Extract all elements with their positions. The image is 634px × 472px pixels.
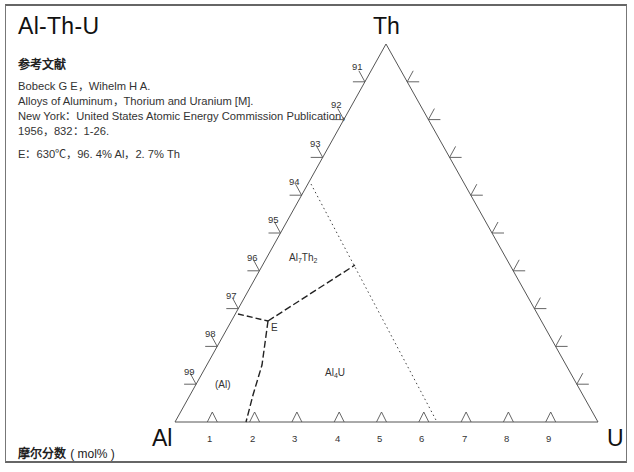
tick-mark [419, 412, 424, 422]
tick-mark [338, 109, 344, 120]
phase-label-al7th2: Al7Th2 [289, 252, 317, 264]
tick-mark [534, 298, 540, 309]
tick-label: 1 [207, 433, 212, 444]
tick-mark [492, 222, 498, 233]
tick-label: 92 [331, 99, 342, 110]
right-edge-ticks [407, 71, 589, 384]
tick-label: 5 [377, 433, 382, 444]
boundary-line-al-e [238, 314, 268, 321]
ternary-triangle [175, 44, 598, 422]
tick-mark [551, 412, 556, 422]
tick-mark [428, 109, 434, 120]
tick-label: 95 [268, 214, 279, 225]
tick-mark [513, 260, 519, 271]
bottom-edge-ticks [207, 412, 555, 422]
tick-mark [503, 412, 508, 422]
tick-mark [255, 412, 260, 422]
tick-label: 2 [250, 433, 255, 444]
tick-mark [207, 412, 212, 422]
bottom-edge-tick-labels: 1 2 3 4 5 6 7 8 9 [207, 433, 551, 444]
phase-label-al4u: Al4U [325, 367, 345, 379]
tick-label: 97 [226, 290, 237, 301]
tick-mark [359, 71, 365, 82]
vertex-label-th: Th [373, 13, 400, 39]
tick-label: 96 [247, 252, 258, 263]
tick-mark [407, 71, 413, 82]
boundary-line-e-bottom [246, 321, 268, 422]
tick-label: 6 [419, 433, 424, 444]
tick-label: 99 [184, 366, 195, 377]
tick-mark [382, 412, 387, 422]
tick-label: 9 [546, 433, 551, 444]
tick-mark [508, 412, 513, 422]
vertex-label-u: U [607, 425, 624, 451]
tick-mark [377, 412, 382, 422]
boundary-line-e-peritectic [268, 265, 355, 321]
tick-mark [250, 412, 255, 422]
tick-label: 98 [205, 328, 216, 339]
vertex-label-al: Al [152, 425, 172, 451]
tick-mark [297, 412, 302, 422]
tick-label: 94 [289, 176, 300, 187]
tick-mark [339, 412, 344, 422]
tick-label: 93 [310, 138, 321, 149]
tick-mark [546, 412, 551, 422]
tick-mark [466, 412, 471, 422]
dotted-tie-line [311, 184, 437, 422]
phase-label-al-solid-solution: (Al) [215, 379, 231, 390]
tick-mark [212, 412, 217, 422]
tick-mark [471, 184, 477, 195]
tick-label: 91 [352, 61, 363, 72]
tick-mark [292, 412, 297, 422]
tick-mark [461, 412, 466, 422]
ternary-diagram: Al Th U 91 92 93 94 95 96 97 98 99 1 2 3… [0, 0, 634, 472]
eutectic-point-label: E [271, 322, 278, 333]
tick-label: 7 [462, 433, 467, 444]
tick-label: 4 [335, 433, 340, 444]
tick-mark [450, 146, 456, 157]
tick-mark [424, 412, 429, 422]
tick-label: 3 [292, 433, 297, 444]
tick-mark [577, 373, 583, 384]
tick-label: 8 [504, 433, 509, 444]
tick-mark [334, 412, 339, 422]
tick-mark [556, 335, 562, 346]
